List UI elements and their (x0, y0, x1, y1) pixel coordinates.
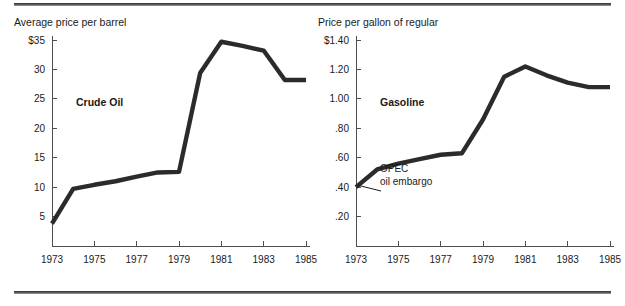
x-tick-label: 1979 (168, 254, 191, 265)
x-tick-label: 1977 (430, 254, 453, 265)
x-tick-label: 1975 (387, 254, 410, 265)
x-tick-label: 1979 (472, 254, 495, 265)
x-tick-label: 1975 (83, 254, 106, 265)
chart-panel-gasoline: Price per gallon of regular .20.40.60.80… (318, 16, 618, 278)
x-tick-label: 1985 (599, 254, 622, 265)
y-tick-label: 20 (34, 123, 46, 134)
data-line-crude-oil (52, 42, 306, 224)
series-label: Crude Oil (76, 96, 123, 108)
y-tick-label: .80 (335, 123, 349, 134)
y-tick-label: 25 (34, 93, 46, 104)
y-tick-label: 1.00 (330, 93, 350, 104)
plot-area-gasoline: .20.40.60.801.001.20$1.40197319751977197… (318, 30, 618, 278)
x-tick-label: 1983 (253, 254, 276, 265)
x-tick-label: 1973 (345, 254, 368, 265)
y-tick-label: .20 (335, 211, 349, 222)
chart-svg-crude-oil: 51015202530$3519731975197719791981198319… (14, 30, 314, 278)
y-tick-label: 5 (39, 211, 45, 222)
annotation-line-2: oil embargo (380, 176, 433, 187)
y-tick-label: 1.20 (330, 64, 350, 75)
x-tick-label: 1981 (210, 254, 233, 265)
divider-bottom (14, 291, 611, 294)
y-tick-label: 30 (34, 64, 46, 75)
chart-panel-crude-oil: Average price per barrel 51015202530$351… (14, 16, 314, 278)
annotation-leader-line (358, 185, 382, 191)
chart-title-crude-oil: Average price per barrel (14, 16, 126, 29)
y-tick-label: .60 (335, 152, 349, 163)
y-tick-label: $1.40 (324, 35, 349, 46)
divider-top (14, 3, 611, 6)
x-tick-label: 1981 (514, 254, 537, 265)
y-tick-label: 10 (34, 182, 46, 193)
chart-svg-gasoline: .20.40.60.801.001.20$1.40197319751977197… (318, 30, 618, 278)
plot-area-crude-oil: 51015202530$3519731975197719791981198319… (14, 30, 314, 278)
annotation-line-1: OPEC (380, 163, 408, 174)
x-tick-label: 1983 (557, 254, 580, 265)
y-tick-label: 15 (34, 152, 46, 163)
x-tick-label: 1973 (41, 254, 64, 265)
y-tick-label: $35 (28, 35, 45, 46)
x-tick-label: 1985 (295, 254, 318, 265)
x-tick-label: 1977 (126, 254, 149, 265)
oil-prices-figure: Average price per barrel 51015202530$351… (0, 0, 625, 306)
y-tick-label: .40 (335, 182, 349, 193)
series-label: Gasoline (380, 96, 425, 108)
chart-title-gasoline: Price per gallon of regular (318, 16, 438, 29)
